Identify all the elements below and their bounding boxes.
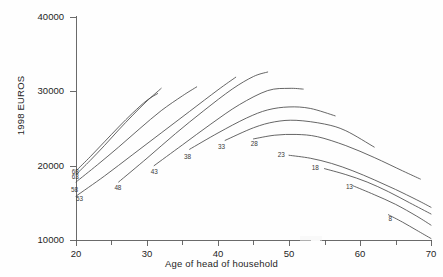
x-tick-label-20: 20 — [61, 248, 91, 259]
series-label-13: 13 — [346, 183, 353, 190]
series-label-53: 53 — [76, 195, 83, 202]
x-tick-label-70: 70 — [416, 248, 443, 259]
series-line-63 — [76, 88, 161, 174]
series-label-8: 8 — [389, 215, 392, 222]
y-axis-title: 1998 EUROS — [15, 61, 26, 151]
series-label-28: 28 — [251, 140, 258, 147]
y-tick-label-40000: 40000 — [18, 11, 64, 22]
series-line-33 — [225, 120, 374, 147]
series-line-38 — [190, 107, 336, 149]
series-label-43: 43 — [151, 168, 158, 175]
series-line-48 — [119, 72, 268, 182]
x-tick-label-40: 40 — [203, 248, 233, 259]
chart-ticks — [70, 17, 431, 246]
series-label-38: 38 — [184, 153, 191, 160]
y-tick-label-10000: 10000 — [18, 234, 64, 245]
y-tick-label-30000: 30000 — [18, 85, 64, 96]
chart-figure: 1998 EUROS Age of head of household 4000… — [0, 0, 443, 277]
series-label-23: 23 — [278, 151, 285, 158]
chart-series-group — [76, 72, 431, 239]
series-line-18 — [325, 169, 432, 214]
x-tick-label-30: 30 — [132, 248, 162, 259]
series-label-48: 48 — [114, 184, 121, 191]
series-label-33: 33 — [218, 143, 225, 150]
chart-plot-area — [0, 0, 443, 277]
y-tick-label-20000: 20000 — [18, 160, 64, 171]
series-label-18: 18 — [312, 164, 319, 171]
series-label-63: 63 — [72, 173, 79, 180]
series-line-8 — [388, 215, 431, 239]
x-tick-label-50: 50 — [274, 248, 304, 259]
x-axis-title: Age of head of household — [0, 258, 443, 269]
series-line-23 — [289, 155, 431, 207]
x-tick-label-60: 60 — [345, 248, 375, 259]
series-label-58: 58 — [71, 186, 78, 193]
